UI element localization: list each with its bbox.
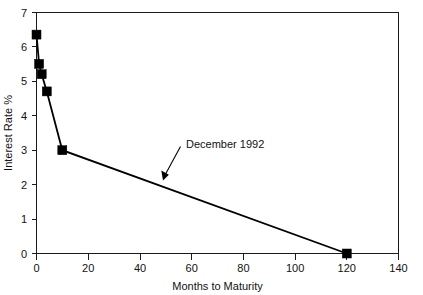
x-tick-label-140: 140 xyxy=(389,262,407,274)
y-tick-label-3: 3 xyxy=(21,144,27,156)
x-tick-label-40: 40 xyxy=(134,262,146,274)
y-axis-title: Interest Rate % xyxy=(2,95,14,171)
y-tick-label-4: 4 xyxy=(21,110,27,122)
arrow-shaft xyxy=(165,147,181,177)
y-tick-label-7: 7 xyxy=(21,7,27,19)
axes-frame xyxy=(37,13,399,254)
x-tick-label-120: 120 xyxy=(338,262,356,274)
x-axis-tick-labels: 0 20 40 60 80 100 120 140 xyxy=(33,262,407,274)
x-tick-label-80: 80 xyxy=(237,262,249,274)
data-point-marker xyxy=(58,146,67,155)
x-tick-label-0: 0 xyxy=(33,262,39,274)
y-axis-ticks xyxy=(32,13,37,254)
plot-frame xyxy=(37,13,399,254)
arrow-head-icon xyxy=(161,171,169,181)
x-tick-label-60: 60 xyxy=(186,262,198,274)
y-tick-label-0: 0 xyxy=(21,248,27,260)
data-point-marker xyxy=(342,249,351,258)
y-tick-label-1: 1 xyxy=(21,213,27,225)
y-tick-label-2: 2 xyxy=(21,179,27,191)
x-axis-title: Months to Maturity xyxy=(172,280,263,292)
x-tick-label-100: 100 xyxy=(286,262,304,274)
data-point-marker xyxy=(35,59,44,68)
annotation-arrow xyxy=(161,147,180,181)
data-point-marker xyxy=(32,30,41,39)
y-axis-tick-labels: 7 6 5 4 3 2 1 0 xyxy=(21,7,27,260)
data-point-marker xyxy=(42,87,51,96)
y-tick-label-5: 5 xyxy=(21,75,27,87)
x-tick-label-20: 20 xyxy=(82,262,94,274)
annotation-label: December 1992 xyxy=(186,138,264,150)
data-point-marker xyxy=(37,70,46,79)
chart-container: 7 6 5 4 3 2 1 0 0 20 40 60 80 100 xyxy=(0,0,423,295)
y-tick-label-6: 6 xyxy=(21,41,27,53)
line-chart: 7 6 5 4 3 2 1 0 0 20 40 60 80 100 xyxy=(0,0,423,295)
